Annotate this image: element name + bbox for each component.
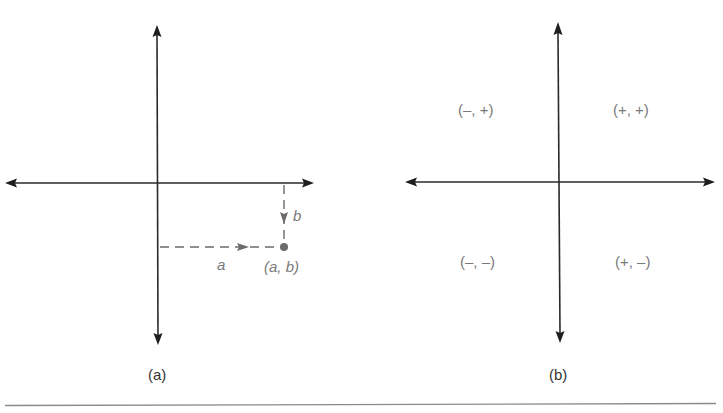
y-axis-a xyxy=(157,34,158,336)
y-axis-b xyxy=(558,32,560,334)
down-arrow-icon xyxy=(280,212,288,224)
label-a: a xyxy=(217,256,225,273)
quadrant-iii-label: (–, –) xyxy=(460,253,495,270)
figure-canvas: a b (a, b) (a) (–, +) (+, +) (–, –) (+, … xyxy=(0,0,723,413)
label-b: b xyxy=(293,207,301,224)
quadrant-iv-label: (+, –) xyxy=(615,253,650,270)
divider-rule xyxy=(5,404,716,406)
point-ab xyxy=(280,243,288,251)
label-point-ab: (a, b) xyxy=(264,258,299,275)
quadrant-i-label: (+, +) xyxy=(613,101,649,118)
panel-a: a b (a, b) (a) xyxy=(5,25,314,383)
quadrant-ii-label: (–, +) xyxy=(458,101,493,118)
panel-b: (–, +) (+, +) (–, –) (+, –) (b) xyxy=(405,22,715,383)
caption-b: (b) xyxy=(549,366,567,383)
caption-a: (a) xyxy=(148,366,166,383)
